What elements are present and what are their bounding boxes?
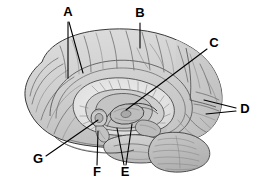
label-e: E: [121, 164, 130, 179]
label-c: C: [209, 35, 219, 50]
label-d: D: [240, 101, 249, 116]
label-b: B: [135, 5, 144, 20]
label-a: A: [63, 4, 73, 19]
label-g: G: [33, 151, 43, 166]
label-f: F: [93, 164, 101, 179]
brain-diagram-svg: A B C D E F G: [0, 0, 265, 188]
brain-anatomy-figure: A B C D E F G: [0, 0, 265, 188]
